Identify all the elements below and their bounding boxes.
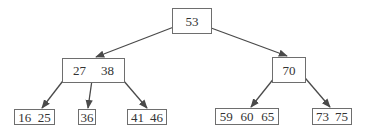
key: 41 xyxy=(131,111,144,124)
key: 53 xyxy=(186,15,199,28)
edge-root-left xyxy=(96,23,181,57)
key: 46 xyxy=(150,111,163,124)
node-leaf-3: 41 46 xyxy=(127,109,167,125)
key: 38 xyxy=(101,64,114,77)
key: 75 xyxy=(335,110,348,123)
node-leaf-4: 59 60 65 xyxy=(215,108,279,125)
key: 27 xyxy=(73,64,86,77)
key: 60 xyxy=(240,110,253,123)
node-internal-right: 70 xyxy=(272,57,306,83)
key: 36 xyxy=(81,111,94,124)
node-leaf-1: 16 25 xyxy=(14,109,55,125)
key: 59 xyxy=(220,110,233,123)
node-internal-left: 27 38 xyxy=(62,58,125,83)
key: 65 xyxy=(261,110,274,123)
edge-root-right xyxy=(201,23,287,56)
node-leaf-2: 36 xyxy=(78,109,96,125)
key: 73 xyxy=(316,110,329,123)
b-tree-diagram: 53 27 38 70 16 25 36 41 46 59 60 65 73 7… xyxy=(0,0,366,135)
key: 25 xyxy=(38,111,51,124)
key: 16 xyxy=(18,111,31,124)
node-root: 53 xyxy=(172,8,212,34)
node-leaf-5: 73 75 xyxy=(312,108,352,125)
key: 70 xyxy=(283,64,296,77)
